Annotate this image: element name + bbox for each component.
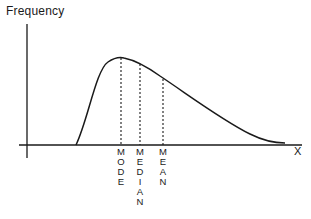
median-label: MEDIAN [135, 147, 145, 207]
x-axis-label: X [294, 145, 301, 157]
mode-label: MODE [116, 147, 126, 187]
y-axis-label: Frequency [6, 4, 65, 18]
mean-label: MEAN [158, 147, 168, 187]
skewed-distribution-diagram [0, 0, 311, 219]
distribution-curve [76, 58, 285, 145]
